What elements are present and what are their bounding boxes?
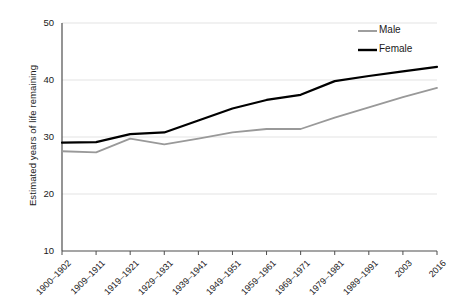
- series-line-male: [62, 88, 437, 152]
- y-axis-tick-label: 50: [28, 17, 54, 28]
- legend-label-male: Male: [379, 24, 401, 35]
- y-axis-tick-label: 30: [28, 131, 54, 142]
- y-axis-tick-label: 10: [28, 245, 54, 256]
- x-axis-tick-marks: [62, 251, 437, 255]
- life-expectancy-line-chart: Estimated years of life remaining 504030…: [0, 0, 456, 305]
- legend-label-female: Female: [379, 43, 412, 54]
- y-axis-tick-label: 40: [28, 74, 54, 85]
- legend-swatches: [358, 31, 377, 50]
- y-axis-tick-label: 20: [28, 188, 54, 199]
